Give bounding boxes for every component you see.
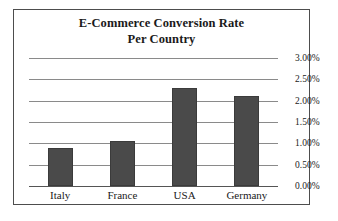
bar-slot <box>154 58 216 186</box>
y-axis-tick-label: 0.50% <box>295 160 320 170</box>
y-axis-tick-label: 1.50% <box>295 117 320 127</box>
bar-slot <box>91 58 153 186</box>
bar-slot <box>216 58 278 186</box>
gridline <box>29 186 278 187</box>
x-axis-tick-label-italy: Italy <box>29 189 91 201</box>
y-axis-tick-label: 3.00% <box>295 53 320 63</box>
bar-usa[interactable] <box>172 88 197 186</box>
y-axis-tick-label: 2.00% <box>295 96 320 106</box>
chart-title-line-2: Per Country <box>14 32 309 47</box>
plot-area <box>29 58 278 186</box>
bar-slot <box>29 58 91 186</box>
x-axis-tick-label-usa: USA <box>154 189 216 201</box>
y-axis-labels: 3.00%2.50%2.00%1.50%1.00%0.50%0.00% <box>295 58 338 186</box>
x-axis-tick-label-france: France <box>91 189 153 201</box>
chart-title-line-1: E-Commerce Conversion Rate <box>79 16 245 30</box>
chart-frame: E-Commerce Conversion Rate Per Country 3… <box>13 9 310 205</box>
bar-france[interactable] <box>110 141 135 186</box>
bar-italy[interactable] <box>48 148 73 186</box>
bar-germany[interactable] <box>234 96 259 186</box>
y-axis-tick-label: 2.50% <box>295 74 320 84</box>
x-axis-labels: ItalyFranceUSAGermany <box>29 189 278 201</box>
y-axis-tick-label: 1.00% <box>295 138 320 148</box>
y-axis-tick-label: 0.00% <box>295 181 320 191</box>
x-axis-tick-label-germany: Germany <box>216 189 278 201</box>
bars-layer <box>29 58 278 186</box>
chart-title: E-Commerce Conversion Rate Per Country <box>14 16 309 47</box>
